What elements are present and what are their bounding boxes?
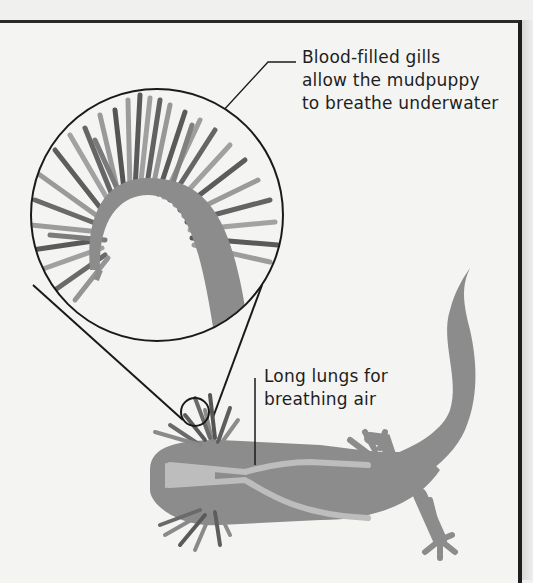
gills-annotation-line-2: allow the mudpuppy <box>302 69 498 92</box>
gills-annotation-line-3: to breathe underwater <box>302 92 498 115</box>
lungs-annotation-line-1: Long lungs for <box>264 365 388 388</box>
gills-annotation: Blood-filled gills allow the mudpuppy to… <box>302 46 498 115</box>
lungs-annotation: Long lungs for breathing air <box>264 365 388 411</box>
lungs-annotation-line-2: breathing air <box>264 388 388 411</box>
gills-annotation-line-1: Blood-filled gills <box>302 46 498 69</box>
